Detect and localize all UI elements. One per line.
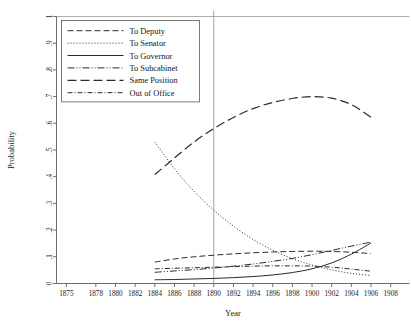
chart-figure: 0.1.2.3.4.5.6.7.8.91 1875187818801882188… [0, 0, 411, 325]
x-tick-labels: 1875187818801882188418861888189018921894… [59, 290, 398, 298]
x-tick-label: 1886 [167, 290, 182, 298]
y-tick-label: .3 [46, 200, 54, 206]
x-axis [57, 284, 410, 288]
legend-label-out-of-office: Out of Office [130, 89, 175, 98]
line-chart-canvas: 0.1.2.3.4.5.6.7.8.91 1875187818801882188… [0, 0, 411, 325]
x-axis-title: Year [225, 308, 241, 318]
legend-label-to-governor: To Governor [130, 52, 173, 61]
x-tick-label: 1906 [364, 290, 379, 298]
y-tick-label: .5 [46, 147, 54, 153]
x-tick-label: 1908 [383, 290, 398, 298]
series-line-to-senator [155, 142, 371, 275]
y-tick-label: .1 [46, 254, 54, 260]
x-tick-label: 1878 [89, 290, 104, 298]
x-tick-label: 1900 [305, 290, 320, 298]
legend: To DeputyTo SenatorTo GovernorTo Subcabi… [62, 21, 200, 102]
x-tick-label: 1902 [325, 290, 340, 298]
x-tick-label: 1892 [226, 290, 241, 298]
y-tick-label: .9 [46, 40, 54, 46]
y-tick-label: .7 [46, 93, 54, 99]
x-tick-label: 1904 [344, 290, 359, 298]
legend-label-same-position: Same Position [130, 76, 179, 85]
x-tick-label: 1875 [59, 290, 74, 298]
x-tick-label: 1896 [266, 290, 281, 298]
y-tick-labels: 0.1.2.3.4.5.6.7.8.91 [46, 14, 54, 285]
legend-label-to-deputy: To Deputy [130, 27, 166, 36]
y-tick-label: 0 [46, 281, 54, 285]
y-tick-label: .8 [46, 67, 54, 73]
y-tick-label: .6 [46, 120, 54, 126]
x-tick-label: 1894 [246, 290, 261, 298]
y-tick-label: 1 [46, 14, 54, 18]
series-line-same-position [155, 97, 371, 175]
y-axis-title: Probability [6, 130, 16, 169]
series-lines [155, 97, 371, 280]
x-tick-label: 1880 [108, 290, 123, 298]
legend-label-to-subcabinet: To Subcabinet [130, 64, 179, 73]
x-tick-label: 1884 [148, 290, 163, 298]
x-tick-label: 1882 [128, 290, 143, 298]
x-tick-label: 1890 [207, 290, 222, 298]
x-tick-label: 1898 [285, 290, 300, 298]
y-tick-label: .4 [46, 174, 54, 180]
y-tick-label: .2 [46, 227, 54, 233]
legend-label-to-senator: To Senator [130, 39, 167, 48]
x-tick-label: 1888 [187, 290, 202, 298]
